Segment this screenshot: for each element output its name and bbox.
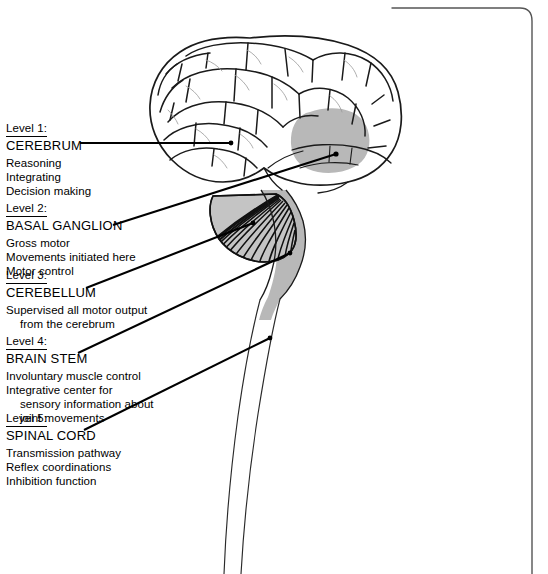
level-tag-4: Level 4: xyxy=(6,335,47,350)
description-line: Movements initiated here xyxy=(6,250,181,264)
description-line: Supervised all motor output xyxy=(6,303,181,317)
organ-name-4: BRAIN STEM xyxy=(6,351,181,366)
organ-name-5: SPINAL CORD xyxy=(6,428,181,443)
label-block-level-3: Level 3: CEREBELLUM Supervised all motor… xyxy=(6,265,181,331)
label-block-level-1: Level 1: CEREBRUM Reasoning Integrating … xyxy=(6,118,181,198)
description-line: Reasoning xyxy=(6,156,181,170)
organ-name-1: CEREBRUM xyxy=(6,138,181,153)
description-line: Integrative center for xyxy=(6,383,181,397)
organ-name-3: CEREBELLUM xyxy=(6,285,181,300)
description-line: Gross motor xyxy=(6,236,181,250)
page-frame xyxy=(392,8,532,574)
description-line: Inhibition function xyxy=(6,474,181,488)
level-tag-3: Level 3: xyxy=(6,269,47,284)
description-line: Transmission pathway xyxy=(6,446,181,460)
spinal-cord-region xyxy=(224,299,280,574)
level-tag-1: Level 1: xyxy=(6,122,47,137)
description-line: Decision making xyxy=(6,184,181,198)
description-line: from the cerebrum xyxy=(6,317,181,331)
cerebrum-region xyxy=(150,36,401,193)
brain-levels-diagram: Level 1: CEREBRUM Reasoning Integrating … xyxy=(0,0,548,574)
label-block-level-5: Level 5: SPINAL CORD Transmission pathwa… xyxy=(6,408,181,488)
figure-caption-sliver xyxy=(8,566,308,574)
level-tag-5: Level 5: xyxy=(6,412,47,427)
level-tag-2: Level 2: xyxy=(6,202,47,217)
organ-name-2: BASAL GANGLION xyxy=(6,218,181,233)
description-line: Involuntary muscle control xyxy=(6,369,181,383)
description-line: Integrating xyxy=(6,170,181,184)
description-line: Reflex coordinations xyxy=(6,460,181,474)
